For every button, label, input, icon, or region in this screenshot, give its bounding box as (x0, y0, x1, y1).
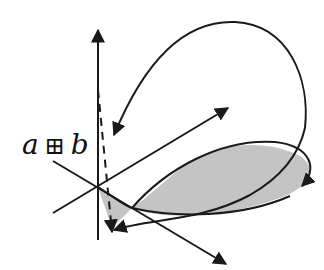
label-right-operand: b (71, 128, 89, 161)
label-left-operand: a (22, 128, 39, 161)
shaded-petal-region (98, 145, 310, 228)
operator-label: a⊞b (22, 128, 89, 161)
box-plus-operator: ⊞ (45, 132, 65, 160)
diagram: a⊞b (0, 0, 324, 270)
